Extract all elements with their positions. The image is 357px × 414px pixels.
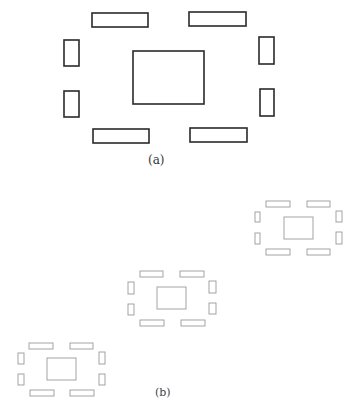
surrounding-block xyxy=(30,390,54,396)
surrounding-block xyxy=(255,233,260,244)
top-right-bar xyxy=(189,12,246,26)
center-table xyxy=(284,217,313,239)
surrounding-block xyxy=(128,282,134,294)
right-upper-block xyxy=(259,37,274,64)
center-table xyxy=(157,287,186,309)
surrounding-block xyxy=(209,281,216,293)
surrounding-block xyxy=(266,249,290,255)
panel-a-layout xyxy=(64,12,274,143)
surrounding-block xyxy=(180,271,204,277)
surrounding-block xyxy=(70,343,93,349)
surrounding-block xyxy=(255,212,260,222)
left-upper-block xyxy=(64,40,79,66)
surrounding-block xyxy=(266,201,290,207)
bottom-left-bar xyxy=(93,129,149,143)
panel-b-layouts xyxy=(18,201,342,396)
group-upper-right xyxy=(255,201,342,255)
surrounding-block xyxy=(99,352,105,364)
surrounding-block xyxy=(140,320,164,326)
layout-diagram xyxy=(0,0,357,414)
surrounding-block xyxy=(128,304,134,315)
left-lower-block xyxy=(64,91,79,117)
group-middle xyxy=(128,271,216,326)
surrounding-block xyxy=(336,232,342,244)
surrounding-block xyxy=(181,320,205,326)
surrounding-block xyxy=(99,374,105,385)
surrounding-block xyxy=(29,343,53,349)
surrounding-block xyxy=(307,249,330,255)
group-lower-left xyxy=(18,343,105,396)
surrounding-block xyxy=(18,353,24,364)
surrounding-block xyxy=(140,271,163,277)
surrounding-block xyxy=(209,303,216,314)
panel-b-caption: (b) xyxy=(155,386,171,399)
bottom-right-bar xyxy=(190,128,247,142)
center-table xyxy=(47,358,76,380)
top-left-bar xyxy=(92,13,148,27)
panel-a-caption: (a) xyxy=(148,153,165,167)
surrounding-block xyxy=(336,211,342,222)
surrounding-block xyxy=(307,201,330,207)
surrounding-block xyxy=(18,374,24,385)
surrounding-block xyxy=(70,390,94,396)
center-table xyxy=(133,51,204,104)
right-lower-block xyxy=(260,89,274,116)
